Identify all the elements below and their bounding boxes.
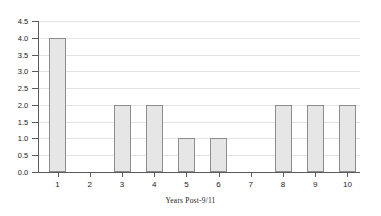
y-tick-mark bbox=[32, 172, 38, 173]
bar-year-9 bbox=[307, 105, 324, 172]
x-tick-label-10: 10 bbox=[337, 180, 357, 189]
y-tick-mark bbox=[32, 38, 38, 39]
x-tick-label-2: 2 bbox=[80, 180, 100, 189]
y-tick-label: 4.5 bbox=[18, 17, 28, 26]
y-tick-label: 0.5 bbox=[18, 151, 28, 160]
x-tick-label-8: 8 bbox=[273, 180, 293, 189]
x-tick-mark bbox=[347, 173, 348, 177]
y-tick-label: 1.5 bbox=[18, 118, 28, 127]
y-tick-mark bbox=[32, 71, 38, 72]
y-tick-mark bbox=[32, 88, 38, 89]
y-tick-label: 4.0 bbox=[18, 34, 28, 43]
bar-year-3 bbox=[114, 105, 131, 172]
x-tick-mark bbox=[58, 173, 59, 177]
x-tick-mark bbox=[154, 173, 155, 177]
y-tick-mark bbox=[32, 21, 38, 22]
y-tick-mark bbox=[32, 55, 38, 56]
y-tick-label: 0.0 bbox=[18, 168, 28, 177]
y-axis-line bbox=[38, 21, 39, 173]
x-tick-label-1: 1 bbox=[48, 180, 68, 189]
x-tick-label-9: 9 bbox=[305, 180, 325, 189]
bar-year-10 bbox=[339, 105, 356, 172]
x-tick-label-5: 5 bbox=[176, 180, 196, 189]
bar-year-4 bbox=[146, 105, 163, 172]
bars-layer bbox=[38, 21, 360, 172]
y-tick-labels: 4.5 4.0 3.5 3.0 2.5 2.0 1.5 1.0 0.5 0.0 bbox=[0, 0, 30, 216]
x-tick-mark bbox=[283, 173, 284, 177]
y-tick-mark bbox=[32, 122, 38, 123]
x-tick-label-3: 3 bbox=[112, 180, 132, 189]
x-tick-label-4: 4 bbox=[144, 180, 164, 189]
bar-year-8 bbox=[275, 105, 292, 172]
x-tick-mark bbox=[90, 173, 91, 177]
x-tick-mark bbox=[122, 173, 123, 177]
x-tick-mark bbox=[186, 173, 187, 177]
y-tick-label: 3.0 bbox=[18, 67, 28, 76]
y-tick-mark bbox=[32, 155, 38, 156]
y-tick-mark bbox=[32, 105, 38, 106]
x-axis-title: Years Post-9/11 bbox=[0, 196, 381, 205]
y-tick-label: 2.0 bbox=[18, 101, 28, 110]
bar-year-5 bbox=[178, 138, 195, 172]
y-tick-label: 3.5 bbox=[18, 51, 28, 60]
bar-chart: 4.5 4.0 3.5 3.0 2.5 2.0 1.5 1.0 0.5 0.0 … bbox=[0, 0, 381, 216]
y-tick-mark bbox=[32, 138, 38, 139]
x-tick-mark bbox=[219, 173, 220, 177]
x-tick-label-6: 6 bbox=[209, 180, 229, 189]
x-tick-mark bbox=[251, 173, 252, 177]
bar-year-6 bbox=[210, 138, 227, 172]
x-axis-line bbox=[38, 172, 360, 173]
bar-year-1 bbox=[49, 38, 66, 172]
y-tick-label: 2.5 bbox=[18, 84, 28, 93]
x-tick-label-7: 7 bbox=[241, 180, 261, 189]
x-tick-mark bbox=[315, 173, 316, 177]
y-tick-label: 1.0 bbox=[18, 134, 28, 143]
